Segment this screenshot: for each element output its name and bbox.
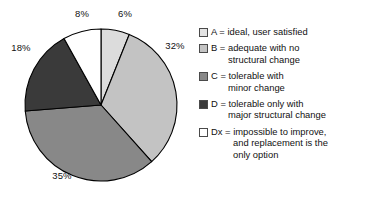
legend-label-b-line1: B = adequate with no xyxy=(211,42,299,53)
pie-plot-area: 6% 32% 35% 18% 8% xyxy=(0,0,200,200)
legend-item-b[interactable]: B = adequate with no structural change xyxy=(199,42,368,65)
legend-label-b-line2: structural change xyxy=(211,54,300,65)
pie-label-b: 32% xyxy=(165,41,184,51)
legend-label-dx: Dx = impossible to improve, and replacem… xyxy=(211,126,328,160)
pie-chart-figure: 6% 32% 35% 18% 8% A = ideal, user satisf… xyxy=(0,0,368,200)
legend-label-dx-line1: Dx = impossible to improve, xyxy=(211,126,326,137)
legend-label-a-line1: A = ideal, user satisfied xyxy=(211,26,308,37)
legend-label-d-line2: major structural change xyxy=(211,109,326,120)
pie-slice-group xyxy=(25,29,177,181)
legend-label-b: B = adequate with no structural change xyxy=(211,42,300,65)
pie-svg xyxy=(0,0,200,200)
pie-label-c: 35% xyxy=(52,171,71,181)
legend-label-c-line1: C = tolerable with xyxy=(211,70,284,81)
pie-label-a: 6% xyxy=(118,9,132,19)
legend-item-c[interactable]: C = tolerable with minor change xyxy=(199,70,368,93)
legend-label-c: C = tolerable with minor change xyxy=(211,70,285,93)
legend-label-d-line1: D = tolerable only with xyxy=(211,98,304,109)
legend-swatch-d-icon xyxy=(199,100,208,109)
legend-item-dx[interactable]: Dx = impossible to improve, and replacem… xyxy=(199,126,368,160)
legend-label-dx-line2: and replacement is the xyxy=(211,137,328,148)
legend: A = ideal, user satisfied B = adequate w… xyxy=(199,26,368,165)
pie-label-dx: 8% xyxy=(75,9,89,19)
legend-item-a[interactable]: A = ideal, user satisfied xyxy=(199,26,368,37)
legend-swatch-a-icon xyxy=(199,28,208,37)
legend-swatch-c-icon xyxy=(199,72,208,81)
legend-label-c-line2: minor change xyxy=(211,82,285,93)
legend-item-d[interactable]: D = tolerable only with major structural… xyxy=(199,98,368,121)
legend-label-d: D = tolerable only with major structural… xyxy=(211,98,326,121)
legend-swatch-dx-icon xyxy=(199,128,208,137)
legend-swatch-b-icon xyxy=(199,44,208,53)
legend-label-dx-line3: only option xyxy=(211,149,328,160)
pie-label-d: 18% xyxy=(11,43,30,53)
legend-label-a: A = ideal, user satisfied xyxy=(211,26,308,37)
